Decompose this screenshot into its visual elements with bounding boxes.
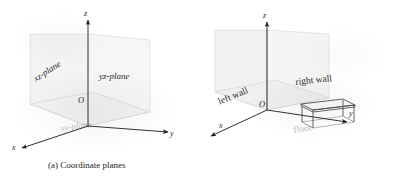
origin-label: O (259, 100, 265, 109)
panel-a-caption: (a) Coordinate planes (48, 160, 125, 170)
y-axis-line (267, 110, 347, 122)
y-axis-label: y (349, 110, 353, 118)
z-axis-label: z (84, 10, 87, 18)
y-axis-label: y (170, 130, 174, 138)
coordinate-planes-drawing (0, 0, 197, 186)
figure-panel-a: z y x O xz-plane yz-plane xy-plane (a) C… (0, 0, 197, 186)
yz-plane-label: yz-plane (99, 72, 130, 81)
figure-panel-b: z y x O left wall right wall floor (b) (197, 0, 394, 186)
x-axis-label: x (12, 144, 16, 152)
x-axis-label: x (219, 122, 223, 130)
origin-label: O (78, 96, 84, 105)
y-axis-line (88, 126, 168, 132)
plane-shading (30, 34, 150, 126)
z-axis-label: z (263, 12, 266, 20)
